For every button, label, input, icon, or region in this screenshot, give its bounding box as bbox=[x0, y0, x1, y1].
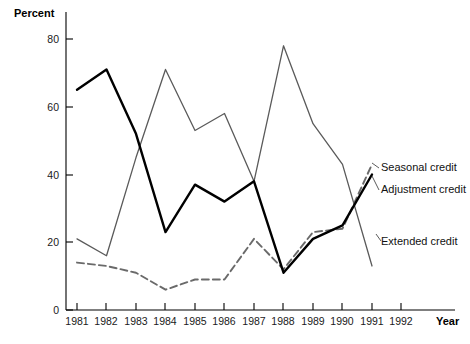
x-tick-label-1988: 1988 bbox=[271, 315, 295, 327]
series-line-seasonal-credit bbox=[77, 164, 372, 289]
y-tick-label-40: 40 bbox=[47, 169, 59, 181]
x-tick-label-1991: 1991 bbox=[360, 315, 384, 327]
y-tick-label-20: 20 bbox=[47, 236, 59, 248]
y-tick-label-80: 80 bbox=[47, 33, 59, 45]
series-label-extended-credit: Extended credit bbox=[381, 235, 457, 247]
leader-line-seasonal bbox=[372, 163, 379, 168]
x-tick-label-1984: 1984 bbox=[153, 315, 177, 327]
x-tick-label-1990: 1990 bbox=[330, 315, 354, 327]
x-tick-label-1983: 1983 bbox=[124, 315, 148, 327]
chart-container: Percent Year 0 20 40 60 80 bbox=[0, 0, 470, 344]
x-axis-tick-labels: 1981 1982 1983 1984 1985 1986 1987 1988 … bbox=[65, 315, 413, 327]
y-axis-title: Percent bbox=[14, 7, 55, 19]
x-tick-label-1992: 1992 bbox=[389, 315, 413, 327]
x-axis-ticks bbox=[77, 303, 401, 310]
x-tick-label-1985: 1985 bbox=[183, 315, 207, 327]
line-chart: Percent Year 0 20 40 60 80 bbox=[0, 0, 470, 344]
series-label-seasonal-credit: Seasonal credit bbox=[381, 161, 457, 173]
y-tick-label-60: 60 bbox=[47, 101, 59, 113]
x-tick-label-1987: 1987 bbox=[242, 315, 266, 327]
x-tick-label-1982: 1982 bbox=[94, 315, 118, 327]
x-axis-title: Year bbox=[436, 315, 460, 327]
x-tick-label-1981: 1981 bbox=[65, 315, 89, 327]
y-axis-ticks bbox=[66, 39, 73, 310]
y-axis-tick-labels: 0 20 40 60 80 bbox=[47, 33, 59, 316]
series-line-adjustment-credit bbox=[77, 69, 372, 272]
leader-line-adjustment bbox=[372, 176, 379, 190]
x-tick-label-1989: 1989 bbox=[301, 315, 325, 327]
x-tick-label-1986: 1986 bbox=[212, 315, 236, 327]
y-tick-label-0: 0 bbox=[53, 304, 59, 316]
series-label-adjustment-credit: Adjustment credit bbox=[381, 183, 466, 195]
